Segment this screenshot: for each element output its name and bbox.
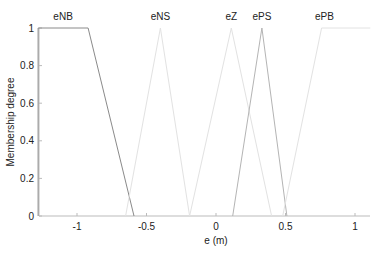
x-axis-label: e (m) (204, 235, 227, 246)
y-tick-label: 0.2 (20, 173, 34, 184)
set-label-eps: ePS (252, 11, 271, 22)
y-tick-label: 1 (28, 23, 34, 34)
y-axis-label: Membership degree (5, 77, 16, 166)
series-line-epb (283, 28, 371, 216)
series-line-eps (233, 28, 287, 216)
set-label-ez: eZ (225, 11, 237, 22)
set-label-ens: eNS (151, 11, 171, 22)
y-tick-label: 0.4 (20, 135, 34, 146)
set-label-epb: ePB (315, 11, 334, 22)
set-label-enb: eNB (53, 11, 73, 22)
x-tick-label: 0 (213, 221, 219, 232)
y-tick-label: 0.8 (20, 60, 34, 71)
series-line-enb (38, 28, 134, 216)
x-tick-label: -1 (73, 221, 82, 232)
y-tick-label: 0.6 (20, 98, 34, 109)
x-tick-label: 1 (352, 221, 358, 232)
x-tick-label: -0.5 (138, 221, 156, 232)
series-line-ens (126, 28, 190, 216)
series-line-ez (190, 28, 272, 216)
series-lines (38, 28, 370, 216)
y-tick-label: 0 (28, 211, 34, 222)
fuzzy-set-labels: eNBeNSeZePSePB (53, 11, 334, 22)
membership-function-chart: -1-0.500.51 00.20.40.60.81 eNBeNSeZePSeP… (0, 0, 378, 254)
x-tick-label: 0.5 (279, 221, 293, 232)
